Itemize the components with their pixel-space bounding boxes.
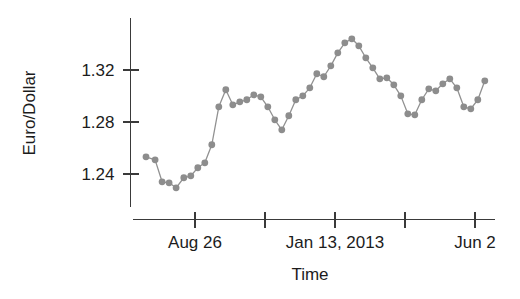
chart-figure: 1.241.281.32Euro/DollarAug 26Jan 13, 201… [0,0,520,299]
series-data-point [236,98,243,105]
series-data-point [362,54,369,61]
series-data-point [278,126,285,133]
series-data-point [173,184,180,191]
series-data-point [348,35,355,42]
series-data-point [369,64,376,71]
series-data-point [418,96,425,103]
series-data-point [292,96,299,103]
series-data-point [474,96,481,103]
x-axis-title: Time [291,265,328,284]
series-data-point [243,96,250,103]
series-data-point [460,103,467,110]
series-data-point [208,141,215,148]
series-data-point [481,77,488,84]
series-data-point [159,178,166,185]
series-data-point [439,80,446,87]
series-data-point [376,75,383,82]
series-data-point [180,174,187,181]
series-data-point [271,116,278,123]
series-data-point [334,49,341,56]
series-data-point [383,74,390,81]
series-data-point [411,111,418,118]
series-data-point [355,42,362,49]
series-data-point [446,75,453,82]
series-data-point [467,105,474,112]
series-data-point [152,156,159,163]
y-axis-title: Euro/Dollar [20,70,39,155]
x-axis-tick-label: Jan 13, 2013 [286,233,384,252]
line-chart-canvas: 1.241.281.32Euro/DollarAug 26Jan 13, 201… [0,0,520,299]
series-data-point [313,70,320,77]
series-data-point [215,103,222,110]
series-data-point [166,179,173,186]
series-data-point [432,87,439,94]
series-data-point [264,103,271,110]
series-data-point [390,81,397,88]
series-data-point [299,92,306,99]
series-data-point [327,62,334,69]
series-data-point [257,93,264,100]
series-data-point [250,91,257,98]
plot-area: 1.241.281.32Euro/DollarAug 26Jan 13, 201… [20,18,496,284]
x-axis-tick-label: Aug 26 [168,233,222,252]
series-data-point [143,153,150,160]
series-data-point [194,164,201,171]
series-data-point [187,172,194,179]
series-data-point [285,112,292,119]
series-data-point [201,159,208,166]
series-data-point [222,86,229,93]
x-axis-tick-label: Jun 2 [454,233,496,252]
series-data-point [425,85,432,92]
series-data-point [341,39,348,46]
series-data-point [229,101,236,108]
series-data-point [320,73,327,80]
y-axis-tick-label: 1.28 [81,113,114,132]
y-axis-tick-label: 1.24 [81,165,114,184]
series-data-point [306,84,313,91]
y-axis-tick-label: 1.32 [81,61,114,80]
series-data-point [453,84,460,91]
series-data-point [397,92,404,99]
series-data-point [404,110,411,117]
